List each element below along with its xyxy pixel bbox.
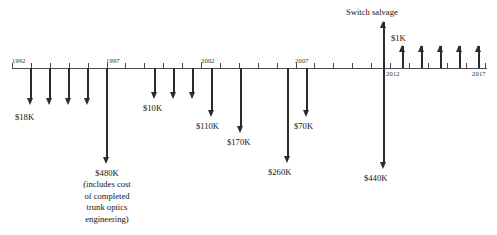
arrow-stem — [173, 68, 174, 93]
arrow-head — [46, 98, 52, 105]
arrow-stem — [154, 68, 155, 93]
amount-label-10k: $10K — [143, 103, 162, 113]
year-label-1992: 1992 — [12, 57, 26, 64]
axis-tick — [220, 63, 221, 68]
amount-label-18k: $18K — [15, 112, 34, 122]
arrow-head — [284, 156, 290, 163]
arrow-stem — [287, 68, 288, 157]
amount-label-440k: $440K — [364, 173, 387, 183]
axis-tick — [428, 63, 429, 68]
arrow-head — [237, 126, 243, 133]
year-label-2007: 2007 — [295, 57, 309, 64]
axis-tick — [163, 63, 164, 68]
year-label-2012: 2012 — [386, 70, 400, 77]
year-label-2002: 2002 — [201, 57, 215, 64]
axis-tick — [182, 63, 183, 68]
axis-tick — [277, 63, 278, 68]
axis-tick — [409, 63, 410, 68]
arrow-stem — [383, 68, 384, 163]
axis-tick — [447, 63, 448, 68]
axis-tick — [333, 63, 334, 68]
arrow-stem — [192, 68, 193, 93]
amount-label-480k: $480K (includes cost of completed trunk … — [67, 168, 147, 225]
arrow-head — [151, 92, 157, 99]
amount-label-260k: $260K — [268, 167, 291, 177]
axis-tick — [352, 63, 353, 68]
arrow-head — [380, 21, 386, 28]
arrow-stem — [68, 68, 69, 99]
axis-tick — [144, 63, 145, 68]
arrow-head — [84, 98, 90, 105]
arrow-head — [475, 45, 481, 52]
axis-tick — [258, 63, 259, 68]
amount-label-70k: $70K — [294, 121, 313, 131]
arrow-stem — [106, 68, 107, 158]
timeline-axis — [12, 68, 487, 69]
arrow-stem — [87, 68, 88, 99]
arrow-head — [456, 45, 462, 52]
arrow-stem — [383, 22, 384, 68]
arrow-stem — [240, 68, 241, 127]
arrow-head — [418, 45, 424, 52]
arrow-head — [208, 110, 214, 117]
arrow-head — [437, 45, 443, 52]
arrow-head — [27, 98, 33, 105]
arrow-head — [189, 92, 195, 99]
amount-label-110k: $110K — [196, 121, 219, 131]
arrow-head — [303, 110, 309, 117]
arrow-stem — [306, 68, 307, 111]
axis-tick — [466, 63, 467, 68]
arrow-stem — [211, 68, 212, 111]
switch-salvage-annotation: Switch salvage — [346, 7, 398, 17]
year-label-1997: 1997 — [106, 57, 120, 64]
axis-tick — [125, 63, 126, 68]
axis-tick — [390, 63, 391, 68]
arrow-head — [380, 162, 386, 169]
arrow-head — [65, 98, 71, 105]
year-label-2017: 2017 — [472, 70, 486, 77]
arrow-stem — [49, 68, 50, 99]
arrow-head — [170, 92, 176, 99]
axis-tick — [485, 63, 486, 68]
arrow-stem — [30, 68, 31, 99]
arrow-head — [399, 45, 405, 52]
axis-tick — [371, 63, 372, 68]
timeline-diagram: 1992 1997 2002 2007 2012 2017 Switch sal… — [0, 0, 497, 235]
amount-label-170k: $170K — [227, 137, 250, 147]
amount-label-1k: $1K — [391, 33, 406, 43]
axis-tick — [314, 63, 315, 68]
arrow-head — [103, 157, 109, 164]
